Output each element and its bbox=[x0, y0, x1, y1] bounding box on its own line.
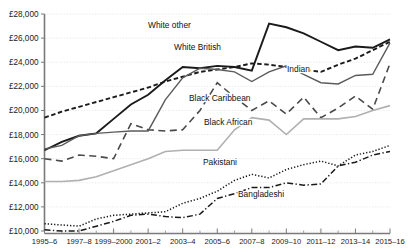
y-tick-label: £18,000 bbox=[9, 131, 39, 140]
series-label-white-british: White British bbox=[174, 42, 221, 52]
series-label-black-african: Black African bbox=[204, 117, 253, 127]
x-tick-label: 2013–14 bbox=[341, 237, 371, 246]
series-label-black-caribbean: Black Caribbean bbox=[189, 93, 251, 103]
y-tick-label: £22,000 bbox=[9, 82, 39, 91]
chart-canvas: £10,000£12,000£14,000£16,000£18,000£20,0… bbox=[0, 0, 410, 252]
y-tick-labels: £10,000£12,000£14,000£16,000£18,000£20,0… bbox=[9, 10, 39, 236]
y-tick-label: £24,000 bbox=[9, 58, 39, 67]
series-label-bangladeshi: Bangladeshi bbox=[238, 189, 284, 199]
y-tick-label: £14,000 bbox=[9, 179, 39, 188]
data-series-lines bbox=[45, 24, 391, 231]
series-line-white-british bbox=[45, 42, 391, 118]
x-tick-label: 2007–8 bbox=[239, 237, 264, 246]
x-tick-label: 2003–4 bbox=[170, 237, 195, 246]
series-label-pakistani: Pakistani bbox=[203, 157, 237, 167]
y-tick-label: £12,000 bbox=[9, 203, 39, 212]
y-tick-label: £10,000 bbox=[9, 227, 39, 236]
x-tick-label: 2011–12 bbox=[306, 237, 335, 246]
series-label-white-other: White other bbox=[148, 20, 191, 30]
y-axis bbox=[41, 14, 45, 231]
line-chart-container: £10,000£12,000£14,000£16,000£18,000£20,0… bbox=[0, 0, 410, 252]
series-inline-labels: White otherWhite otherWhite BritishWhite… bbox=[148, 20, 310, 199]
x-tick-label: 1999–2000 bbox=[95, 237, 133, 246]
x-tick-label: 2015–16 bbox=[375, 237, 405, 246]
y-tick-label: £28,000 bbox=[9, 10, 39, 19]
x-tick-label: 2009–10 bbox=[272, 237, 302, 246]
series-line-black-caribbean bbox=[45, 63, 391, 161]
y-tick-label: £20,000 bbox=[9, 106, 39, 115]
x-axis bbox=[45, 229, 391, 234]
x-tick-label: 1997–8 bbox=[66, 237, 91, 246]
x-tick-label: 1995–6 bbox=[32, 237, 57, 246]
y-tick-label: £26,000 bbox=[9, 34, 39, 43]
x-tick-labels: 1995–61997–81999–20002001–22003–42005–62… bbox=[32, 237, 405, 246]
x-tick-label: 2005–6 bbox=[205, 237, 230, 246]
x-tick-label: 2001–2 bbox=[135, 237, 160, 246]
y-tick-label: £16,000 bbox=[9, 155, 39, 164]
series-label-indian: Indian bbox=[287, 64, 310, 74]
